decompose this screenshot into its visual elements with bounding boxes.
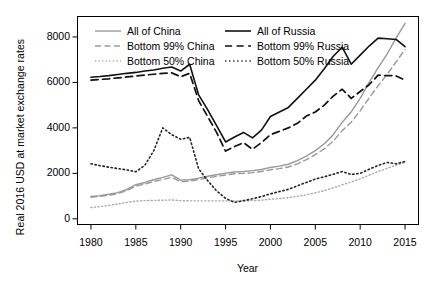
- data-series-group: [91, 23, 405, 207]
- series-line-4: [91, 73, 405, 151]
- series-line-3: [91, 38, 405, 142]
- legend-line-samples: [95, 31, 251, 61]
- series-line-5: [91, 128, 405, 203]
- plot-area: [0, 0, 438, 288]
- chart-figure: Real 2016 USD at market exchange rates 0…: [0, 0, 438, 288]
- series-line-0: [91, 23, 405, 196]
